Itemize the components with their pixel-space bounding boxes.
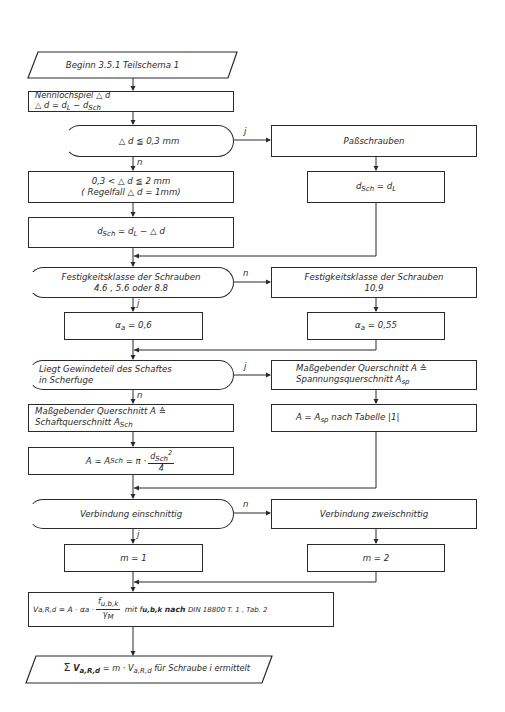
decision-clearance-label: △ d ≦ 0,3 mm [119, 135, 180, 147]
shear-resistance-formula: Va,R,d = A · αa · fu,b,k γM mit fu,b,k n… [33, 597, 268, 622]
decision-thread-line2: in Scherfuge [39, 375, 93, 386]
branch-label-yes: j [137, 529, 139, 539]
nennlochspiel-line1: Nennlochspiel △ d [35, 90, 110, 100]
shaft-section-line2: Schaftquerschnitt ASch [35, 417, 133, 431]
process-m2: m = 2 [307, 544, 445, 572]
branch-label-no: n [137, 390, 142, 400]
end-node: Σ Va,R,d = m · Va,R,d für Schraube i erm… [26, 656, 272, 683]
range-line1: 0,3 < △ d ≦ 2 mm [92, 176, 171, 187]
process-dsch-equals-dl: dSch = dL [307, 171, 445, 203]
m2-label: m = 2 [363, 552, 390, 564]
fraction: fu,b,k γM [96, 597, 120, 622]
process-shaft-section: Maßgebender Querschnitt A ≙ Schaftquersc… [28, 404, 234, 432]
process-a-equals-asch: A = ASch = π · dSch2 4 [28, 447, 234, 475]
nennlochspiel-formula: △ d = dL − dSch [35, 100, 101, 113]
strength-109-line1: Festigkeitsklasse der Schrauben [304, 272, 443, 283]
fraction: dSch2 4 [148, 448, 174, 475]
decision-strength-class: Festigkeitsklasse der Schrauben 4.6 , 5.… [28, 267, 234, 298]
decision-strength-line1: Festigkeitsklasse der Schrauben [61, 272, 200, 283]
end-label: Σ Va,R,d = m · Va,R,d für Schraube i erm… [48, 650, 250, 689]
decision-single-shear: Verbindung einschnittig [28, 499, 234, 529]
double-shear-label: Verbindung zweischnittig [320, 508, 428, 520]
passchrauben-label: Paßschrauben [344, 135, 405, 147]
decision-thread-line1: Liegt Gewindeteil des Schaftes [39, 364, 172, 375]
branch-label-no: n [243, 268, 248, 278]
branch-label-yes: j [137, 298, 139, 308]
stress-section-line1: Maßgebender Querschnitt A ≙ [296, 363, 427, 374]
branch-label-yes: j [244, 361, 246, 371]
alpha-06-formula: αa = 0,6 [115, 319, 151, 334]
process-shear-resistance-formula: Va,R,d = A · αa · fu,b,k γM mit fu,b,k n… [28, 592, 334, 627]
dsch-calc-formula: dSch = dL − △ d [97, 225, 165, 240]
process-m1: m = 1 [64, 544, 203, 572]
branch-label-yes: j [244, 126, 246, 136]
process-strength-109: Festigkeitsklasse der Schrauben 10,9 [271, 267, 477, 298]
process-stress-section: Maßgebender Querschnitt A ≙ Spannungsque… [271, 360, 477, 390]
decision-thread-in-shear-plane: Liegt Gewindeteil des Schaftes in Scherf… [28, 360, 234, 390]
process-alpha-055: αa = 0,55 [307, 312, 445, 340]
stress-section-line2: Spannungsquerschnitt Asp [296, 374, 410, 388]
start-label: Beginn 3.5.1 Teilschema 1 [66, 59, 179, 71]
decision-single-shear-label: Verbindung einschnittig [80, 508, 182, 520]
branch-label-no: n [243, 499, 248, 509]
shaft-section-line1: Maßgebender Querschnitt A ≙ [35, 406, 166, 417]
m1-label: m = 1 [120, 552, 147, 564]
decision-strength-line2: 4.6 , 5.6 oder 8.8 [94, 283, 168, 294]
process-alpha-06: αa = 0,6 [64, 312, 203, 340]
process-nennlochspiel: Nennlochspiel △ d △ d = dL − dSch [28, 91, 234, 112]
alpha-055-formula: αa = 0,55 [355, 319, 397, 334]
process-dsch-calc: dSch = dL − △ d [28, 217, 234, 248]
start-node: Beginn 3.5.1 Teilschema 1 [28, 52, 237, 78]
process-double-shear: Verbindung zweischnittig [271, 499, 477, 529]
range-line2: ( Regelfall △ d = 1mm) [81, 187, 180, 198]
a-asch-formula: A = ASch = π · dSch2 4 [86, 448, 176, 475]
branch-label-no: n [137, 157, 142, 167]
dsch-equals-dl-formula: dSch = dL [356, 180, 396, 195]
process-passchrauben: Paßschrauben [271, 125, 477, 157]
process-range: 0,3 < △ d ≦ 2 mm ( Regelfall △ d = 1mm) [28, 171, 234, 203]
decision-clearance: △ d ≦ 0,3 mm [64, 125, 234, 157]
a-asp-formula: A = Asp nach Tabelle |1| [296, 411, 399, 426]
process-a-equals-asp: A = Asp nach Tabelle |1| [271, 404, 477, 432]
flowchart: j n n j j n n j Beginn 3.5.1 Teilschema … [0, 0, 505, 712]
strength-109-line2: 10,9 [364, 283, 383, 294]
